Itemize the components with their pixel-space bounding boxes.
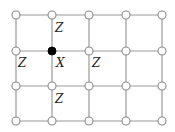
node-label-z: Z: [17, 56, 27, 70]
node-label-z: Z: [54, 21, 64, 35]
lattice-node: [85, 47, 93, 55]
lattice-node: [12, 47, 20, 55]
lattice-node: [85, 11, 93, 19]
lattice-node: [12, 82, 20, 90]
node-label-z: Z: [91, 56, 101, 70]
filled-node-x: [48, 47, 56, 55]
grid-lattice-diagram: ZZXZZ: [0, 0, 175, 132]
lattice-node: [122, 47, 130, 55]
lattice-node: [158, 11, 166, 19]
lattice-node: [12, 117, 20, 125]
lattice-node: [122, 11, 130, 19]
lattice-node: [48, 117, 56, 125]
lattice-node: [158, 47, 166, 55]
lattice-node: [158, 82, 166, 90]
lattice-node: [158, 117, 166, 125]
lattice-node: [12, 11, 20, 19]
lattice-node: [122, 82, 130, 90]
lattice-node: [122, 117, 130, 125]
node-label-x: X: [55, 56, 65, 70]
lattice-node: [85, 82, 93, 90]
lattice-node: [85, 117, 93, 125]
node-label-z: Z: [54, 92, 64, 106]
lattice-node: [48, 11, 56, 19]
lattice-node: [48, 82, 56, 90]
lattice-edges: [16, 15, 162, 121]
